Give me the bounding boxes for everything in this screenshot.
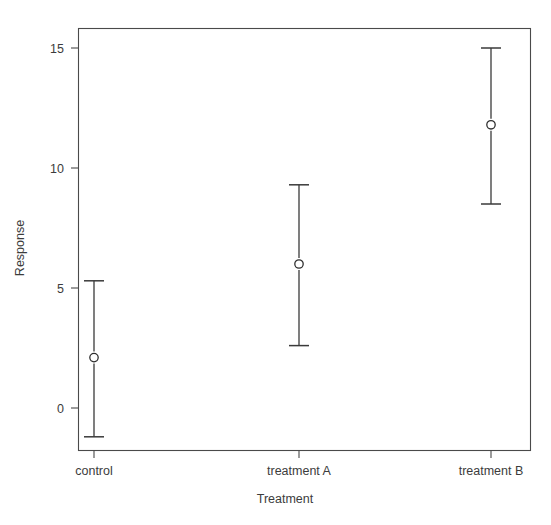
data-point-group-1 <box>289 185 309 346</box>
chart-container: 15 10 5 0 Response control treatment A t… <box>0 0 551 525</box>
point-marker-2 <box>487 121 495 129</box>
y-tick-label-0: 0 <box>57 402 64 416</box>
y-tick-label-10: 10 <box>50 162 64 176</box>
point-marker-0 <box>90 353 98 361</box>
y-tick-label-5: 5 <box>57 282 64 296</box>
y-tick-label-15: 15 <box>50 42 64 56</box>
x-tick-label-treatment-a: treatment A <box>267 464 332 478</box>
plot-panel-border <box>79 29 531 451</box>
point-marker-1 <box>295 260 303 268</box>
data-point-group-2 <box>481 48 501 204</box>
response-vs-treatment-chart: 15 10 5 0 Response control treatment A t… <box>0 0 551 525</box>
data-series-layer <box>84 48 501 437</box>
x-tick-label-treatment-b: treatment B <box>459 464 524 478</box>
y-axis-ticks <box>71 48 79 408</box>
x-axis-ticks <box>94 451 491 459</box>
data-point-group-0 <box>84 281 104 437</box>
x-tick-label-control: control <box>75 464 113 478</box>
x-axis-title: Treatment <box>257 492 314 506</box>
y-axis-title: Response <box>13 220 27 276</box>
